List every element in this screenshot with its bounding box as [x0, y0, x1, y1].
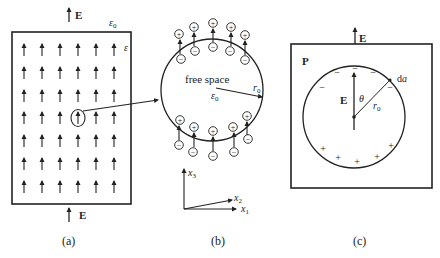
panel-b: + + + + + − − − − −	[161, 19, 263, 248]
radius-label: r0	[253, 82, 261, 95]
charge-minus: −	[243, 56, 248, 65]
svg-text:−: −	[319, 82, 325, 93]
svg-text:−: −	[387, 82, 393, 93]
svg-text:+: +	[374, 151, 380, 162]
charge-minus: −	[211, 152, 216, 161]
free-space-label: free space	[185, 73, 229, 85]
field-label-inner: E	[340, 94, 347, 106]
x1-label: x1	[240, 203, 249, 216]
caption-a: (a)	[62, 234, 75, 248]
charge-minus: −	[177, 141, 182, 150]
polarized-dielectric-box	[291, 44, 432, 188]
charge-plus: +	[211, 127, 216, 136]
inner-permittivity-label: ε	[124, 42, 128, 53]
charge-plus: +	[243, 31, 248, 40]
area-element-label: da	[397, 73, 407, 84]
field-label-bottom: E	[79, 209, 86, 221]
charge-plus: +	[211, 19, 216, 28]
panel-a: E ε0 ε	[12, 8, 158, 248]
svg-text:−: −	[370, 67, 376, 78]
x3-label: x3	[187, 167, 196, 180]
charge-minus: −	[193, 47, 198, 56]
radius-label: r0	[373, 100, 381, 113]
svg-text:+: +	[388, 140, 394, 151]
charge-plus: +	[231, 123, 236, 132]
field-label-top: E	[359, 32, 366, 44]
charge-minus: −	[191, 148, 196, 157]
outer-permittivity-label: ε0	[109, 17, 117, 30]
charge-plus: +	[192, 123, 197, 132]
charge-plus: +	[192, 23, 197, 32]
svg-text:+: +	[354, 156, 360, 167]
svg-text:−: −	[334, 67, 340, 78]
charge-minus: −	[179, 55, 184, 64]
field-arrow-grid	[24, 44, 114, 193]
charge-plus: +	[245, 112, 250, 121]
svg-text:+: +	[320, 143, 326, 154]
area-element-point	[388, 78, 391, 81]
charge-minus: −	[246, 135, 251, 144]
polarization-label: P	[302, 55, 309, 67]
caption-c: (c)	[353, 234, 366, 248]
charge-plus: +	[177, 30, 182, 39]
charge-minus: −	[228, 47, 233, 56]
dielectric-sphere-figure: E ε0 ε	[0, 0, 440, 258]
x2-axis-arrow-icon	[184, 200, 232, 209]
field-label-top: E	[75, 9, 82, 21]
cavity-permittivity-label: ε0	[211, 90, 219, 103]
panel-c: E P − − − − − + + + + + E θ r0 da (c)	[291, 28, 432, 248]
charge-plus: +	[178, 116, 183, 125]
svg-text:+: +	[335, 152, 341, 163]
angle-label: θ	[359, 93, 364, 104]
zoom-connector-arrow-icon	[83, 100, 158, 111]
svg-text:−: −	[352, 63, 358, 74]
caption-b: (b)	[211, 234, 225, 248]
charge-minus: −	[232, 148, 237, 157]
charge-minus: −	[211, 43, 216, 52]
charge-plus: +	[229, 23, 234, 32]
